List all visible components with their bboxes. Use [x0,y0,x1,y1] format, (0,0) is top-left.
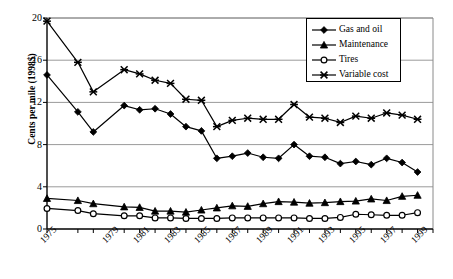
data-point-marker [90,211,96,217]
data-point-marker [383,155,390,162]
data-point-marker [182,96,190,103]
data-point-marker [414,169,421,176]
data-point-marker [121,213,127,219]
data-point-marker [321,27,328,34]
data-point-marker [414,116,422,123]
legend-marker-icon [311,38,337,52]
data-point-marker [321,115,329,122]
data-point-marker [275,116,283,123]
chart-container: Cents per mile (1998$) 201612840 1975197… [0,0,453,279]
legend-label: Tires [339,55,358,65]
data-point-marker [415,210,421,216]
legend-marker-icon [311,68,337,82]
legend-item-variable-cost[interactable]: Variable cost [311,68,399,82]
data-point-marker [229,153,236,160]
legend-marker-icon [311,23,337,37]
data-point-marker [213,123,221,130]
data-point-marker [167,80,175,87]
data-point-marker [367,115,375,122]
series-maintenance [43,192,421,216]
legend-item-maintenance[interactable]: Maintenance [311,38,399,52]
data-point-marker [260,154,267,161]
data-point-marker [291,215,297,221]
data-point-marker [306,114,314,121]
data-point-marker [399,159,406,166]
data-point-marker [244,115,252,122]
data-point-marker [213,155,220,162]
data-point-marker [137,213,143,219]
data-point-marker [136,106,143,113]
data-point-marker [136,71,144,78]
data-point-marker [322,154,329,161]
legend-item-tires[interactable]: Tires [311,53,399,67]
data-point-marker [259,116,267,123]
data-point-marker [307,216,313,222]
data-point-marker [384,212,390,218]
data-point-marker [152,105,159,112]
data-point-marker [168,215,174,221]
data-point-marker [151,77,159,84]
data-point-marker [75,208,81,214]
data-point-marker [368,212,374,218]
chart-legend: Gas and oilMaintenanceTiresVariable cost [306,18,401,82]
data-point-marker [244,150,251,157]
data-point-marker [383,110,391,117]
data-point-marker [352,158,359,165]
data-point-marker [353,211,359,217]
data-point-marker [152,215,158,221]
data-point-marker [336,119,344,126]
legend-label: Variable cost [339,70,388,80]
legend-label: Maintenance [339,40,388,50]
data-point-marker [337,160,344,167]
data-point-marker [214,216,220,222]
legend-item-gas-and-oil[interactable]: Gas and oil [311,23,399,37]
legend-marker-icon [311,53,337,67]
data-point-marker [198,127,205,134]
data-point-marker [352,113,360,120]
data-point-marker [228,117,236,124]
data-point-marker [399,212,405,218]
data-point-marker [398,112,406,119]
data-point-marker [229,215,235,221]
data-point-marker [183,216,189,222]
data-point-marker [120,66,128,73]
data-point-marker [320,72,328,79]
data-point-marker [245,215,251,221]
data-point-marker [199,216,205,222]
data-point-marker [260,215,266,221]
data-point-marker [44,206,50,212]
data-point-marker [89,88,97,95]
data-point-marker [321,57,327,63]
data-point-marker [368,161,375,168]
legend-label: Gas and oil [339,25,382,35]
data-point-marker [276,215,282,221]
data-point-marker [322,216,328,222]
data-point-marker [337,214,343,220]
